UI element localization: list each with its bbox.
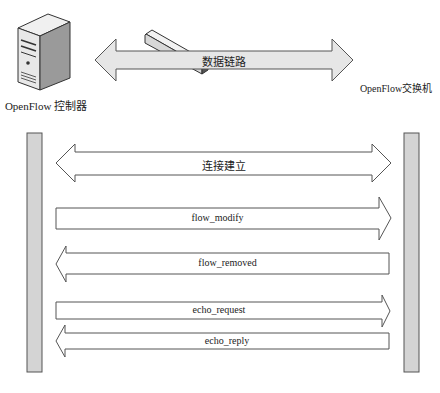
switch-label: OpenFlow交换机 [352, 80, 440, 95]
controller-label: OpenFlow 控制器 [0, 97, 92, 113]
message-label-echo-request: echo_request [56, 304, 382, 315]
message-label-flow-modify: flow_modify [56, 212, 379, 223]
data-link-label: 数据链路 [116, 53, 332, 69]
message-label-flow-removed: flow_removed [66, 257, 389, 268]
message-label-echo-reply: echo_reply [65, 335, 389, 346]
server-icon [18, 14, 70, 90]
switch-lifeline [404, 133, 419, 372]
message-label-connect: 连接建立 [75, 157, 372, 173]
controller-lifeline [27, 133, 42, 372]
